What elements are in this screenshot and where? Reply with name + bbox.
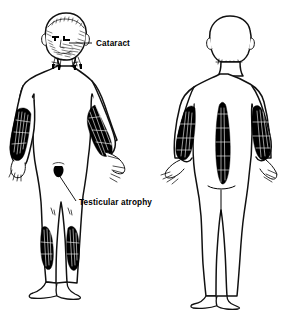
anterior-foot-left bbox=[29, 282, 57, 298]
medical-illustration: Cataract Testicular atrophy bbox=[0, 0, 298, 310]
anterior-figure bbox=[9, 13, 125, 299]
posterior-foot-left bbox=[191, 296, 217, 308]
posterior-head bbox=[210, 16, 251, 62]
posterior-figure bbox=[161, 16, 277, 309]
cataract-label: Cataract bbox=[96, 39, 130, 48]
posterior-hand-right bbox=[260, 160, 277, 179]
anterior-foot-right bbox=[56, 282, 80, 299]
illustration-canvas: Cataract Testicular atrophy bbox=[0, 0, 298, 310]
posterior-foot-right bbox=[216, 296, 239, 309]
testicular-atrophy-label: Testicular atrophy bbox=[79, 198, 152, 207]
posterior-hand-left bbox=[165, 160, 184, 178]
posterior-forearm-right-mass bbox=[252, 106, 270, 160]
anterior-head bbox=[45, 13, 86, 60]
